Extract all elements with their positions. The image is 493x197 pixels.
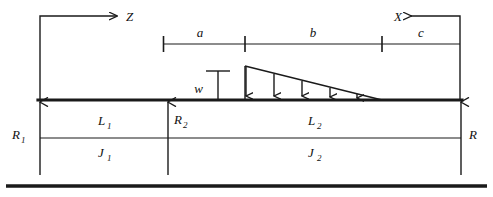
- support-reaction-R: R: [461, 102, 477, 175]
- span-label-L2-subscript: 2: [317, 121, 322, 131]
- support-reaction-R1: R 1: [11, 102, 40, 175]
- load-label-w: w: [194, 81, 203, 96]
- diagram-canvas: Z X a b c w: [0, 0, 493, 197]
- span-labels: L 1 L 2: [97, 113, 322, 131]
- inertia-label-J2: J: [308, 145, 315, 160]
- inertia-label-J1-subscript: 1: [107, 153, 112, 163]
- z-axis-arrow: [40, 16, 117, 100]
- inertia-label-J2-subscript: 2: [317, 153, 322, 163]
- load-hypotenuse: [245, 66, 382, 100]
- x-axis-label: X: [393, 9, 403, 24]
- span-label-L1: L: [97, 113, 105, 128]
- load-intensity-marker: w: [194, 71, 230, 100]
- beam-diagram: Z X a b c w: [0, 0, 493, 197]
- reaction-label-R1-subscript: 1: [21, 135, 26, 145]
- inertia-labels: J 1 J 2: [98, 145, 322, 163]
- dimension-row: a b c: [163, 25, 460, 52]
- z-axis-group: Z: [40, 9, 134, 100]
- inertia-label-J1: J: [98, 145, 105, 160]
- z-axis-label: Z: [126, 9, 134, 24]
- reaction-label-R2-subscript: 2: [183, 120, 188, 130]
- reaction-label-R: R: [468, 127, 477, 142]
- span-label-L2: L: [307, 113, 315, 128]
- triangular-load: [245, 66, 382, 100]
- dim-label-a: a: [197, 25, 204, 40]
- span-label-L1-subscript: 1: [107, 121, 112, 131]
- dim-label-c: c: [418, 25, 424, 40]
- dim-label-b: b: [310, 25, 317, 40]
- reaction-label-R1: R: [11, 127, 20, 142]
- x-axis-group: X: [393, 9, 460, 100]
- reaction-label-R2: R: [173, 112, 182, 127]
